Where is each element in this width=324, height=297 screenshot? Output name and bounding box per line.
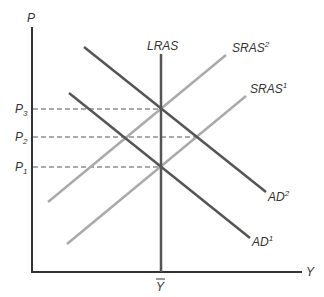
sras1-label: SRAS1 — [250, 81, 287, 96]
y-bar-label: Y — [156, 280, 165, 294]
p3-label: P3 — [15, 102, 28, 118]
ad-as-diagram: P Y P3 P2 P1 LRAS SRAS2 SRAS1 AD2 AD1 Y — [0, 0, 324, 297]
sras2-label: SRAS2 — [232, 40, 270, 55]
ad2-curve — [84, 47, 266, 192]
lras-label: LRAS — [147, 39, 178, 53]
p2-label: P2 — [15, 130, 28, 146]
ad2-label: AD2 — [267, 189, 290, 204]
p1-label: P1 — [15, 160, 27, 176]
y-axis-label: P — [27, 11, 35, 25]
x-axis-label: Y — [306, 265, 315, 279]
ad1-label: AD1 — [251, 234, 273, 249]
sras1-curve — [67, 96, 246, 244]
sras2-curve — [48, 55, 226, 202]
